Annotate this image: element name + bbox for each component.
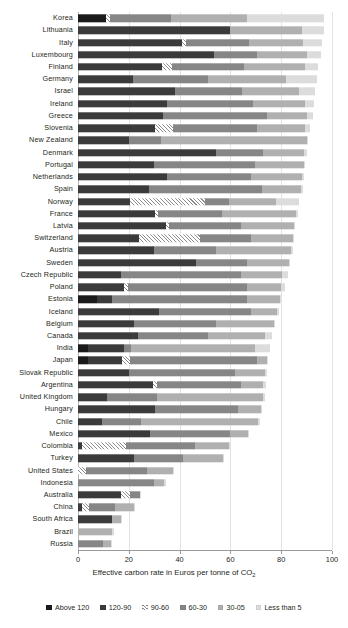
bar-segment	[112, 296, 247, 303]
category-label: Czech Republic	[21, 271, 73, 278]
bar-segment	[154, 479, 164, 486]
bar-segment	[121, 516, 122, 523]
bar-segment	[130, 198, 205, 205]
x-tick-label: 0	[76, 556, 80, 563]
bar-segment	[124, 345, 132, 352]
stacked-bar	[78, 210, 298, 217]
bar-segment	[305, 100, 314, 107]
x-tick-label: 60	[226, 556, 234, 563]
bar-segment	[173, 124, 257, 131]
legend-item[interactable]: 120-90	[100, 604, 131, 611]
stacked-bar	[78, 51, 321, 58]
legend-item[interactable]: Less than 5	[256, 604, 302, 611]
category-label: Indonesia	[41, 479, 73, 486]
bar-segment	[251, 234, 293, 241]
bar-segment	[78, 63, 162, 70]
bar-segment	[263, 381, 266, 388]
bar-segment	[78, 222, 166, 229]
bar-row: Greece	[78, 110, 332, 122]
bar-row: Ireland	[78, 98, 332, 110]
stacked-bar	[78, 100, 314, 107]
bar-segment	[131, 345, 254, 352]
stacked-bar	[78, 124, 310, 131]
bar-segment	[167, 173, 251, 180]
bar-segment	[230, 27, 301, 34]
bar-row: China	[78, 501, 332, 513]
bar-segment	[299, 88, 316, 95]
stacked-bar	[78, 345, 270, 352]
bar-segment	[249, 39, 302, 46]
legend-label: 60-30	[189, 604, 207, 611]
bar-segment	[78, 76, 133, 83]
legend-item[interactable]: 90-60	[142, 604, 169, 611]
bar-segment	[276, 198, 299, 205]
bar-segment	[78, 528, 112, 535]
bar-segment	[263, 149, 304, 156]
bar-row: New Zealand	[78, 134, 332, 146]
stacked-bar	[78, 76, 317, 83]
bar-segment	[78, 516, 112, 523]
category-label: Slovak Republic	[19, 369, 73, 376]
bar-segment	[102, 418, 141, 425]
bar-row: Hungary	[78, 403, 332, 415]
bar-segment	[223, 455, 224, 462]
x-axis-title: Effective carbon rate in Euros per tonne…	[0, 568, 348, 577]
category-label: United States	[28, 467, 73, 474]
bar-segment	[154, 161, 254, 168]
bar-segment	[230, 430, 248, 437]
bar-segment	[78, 124, 155, 131]
x-axis-title-text: Effective carbon rate in Euros per tonne…	[93, 568, 253, 577]
bar-segment	[86, 467, 147, 474]
x-axis-line	[78, 550, 332, 551]
stacked-bar	[78, 27, 324, 34]
bar-segment	[139, 234, 200, 241]
bar-segment	[121, 491, 130, 498]
bar-row: Australia	[78, 489, 332, 501]
bar-segment	[78, 173, 167, 180]
category-label: Latvia	[53, 222, 73, 229]
bar-segment	[157, 393, 264, 400]
bar-segment	[186, 39, 250, 46]
bar-segment	[229, 442, 230, 449]
bar-segment	[216, 247, 291, 254]
bar-segment	[150, 430, 230, 437]
stacked-bar	[78, 320, 275, 327]
legend-label: 120-90	[109, 604, 131, 611]
stacked-bar	[78, 503, 135, 510]
legend-swatch-icon	[100, 605, 106, 611]
gridline-100	[332, 12, 333, 550]
legend-item[interactable]: Above 120	[46, 604, 89, 611]
x-tick-label: 100	[326, 556, 338, 563]
bar-row: Iceland	[78, 305, 332, 317]
stacked-bar	[78, 491, 142, 498]
legend-item[interactable]: 30-05	[218, 604, 245, 611]
bar-segment	[195, 442, 229, 449]
category-label: Italy	[59, 39, 73, 46]
bar-row: Czech Republic	[78, 269, 332, 281]
bar-row: Austria	[78, 244, 332, 256]
category-label: Poland	[50, 284, 73, 291]
bar-row: United States	[78, 464, 332, 476]
bar-segment	[307, 51, 321, 58]
bar-segment	[111, 540, 112, 547]
legend-item[interactable]: 60-30	[180, 604, 207, 611]
bar-segment	[280, 296, 281, 303]
bar-row: Lithuania	[78, 24, 332, 36]
bar-row: Estonia	[78, 293, 332, 305]
bar-segment	[263, 393, 264, 400]
bar-segment	[78, 137, 129, 144]
x-tick-label: 20	[125, 556, 133, 563]
category-label: Japan	[53, 357, 73, 364]
x-tick-mark	[281, 551, 282, 554]
stacked-bar	[78, 222, 295, 229]
bar-segment	[78, 357, 88, 364]
category-label: Lithuania	[43, 27, 73, 34]
bar-row: Germany	[78, 73, 332, 85]
stacked-bar	[78, 455, 224, 462]
category-label: Luxembourg	[32, 51, 73, 58]
legend-swatch-icon	[256, 605, 262, 611]
x-tick-label: 40	[175, 556, 183, 563]
bar-rows: KoreaLithuaniaItalyLuxembourgFinlandGerm…	[78, 12, 332, 550]
bar-segment	[134, 320, 217, 327]
bar-segment	[128, 283, 247, 290]
